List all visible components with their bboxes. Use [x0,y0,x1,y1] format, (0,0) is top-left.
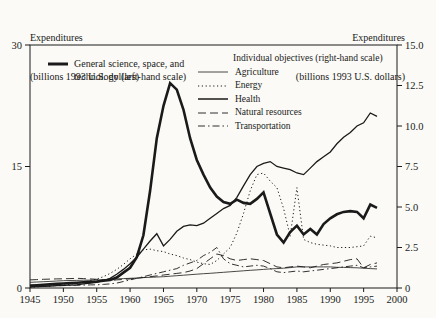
energy-line-sample [198,83,228,89]
legend-general-science: General science, space, and technology (… [48,58,186,83]
right-axis-tick-label: 15.0 [405,40,423,51]
legend-item-natural-resources-label: Natural resources [235,106,302,120]
x-axis-tick-label: 2000 [387,294,408,305]
health-line-sample [198,96,228,102]
x-axis-tick-label: 1975 [220,294,241,305]
legend-item-health: Health [198,93,383,107]
left-axis-tick-label: 15 [12,161,23,172]
right-axis-tick-label: 12.5 [405,80,423,91]
right-axis-tick-label: 5.0 [405,202,418,213]
legend-general-science-line1: General science, space, and [74,58,186,71]
legend-item-energy: Energy [198,79,383,93]
series-energy-line [30,173,377,287]
agriculture-line-sample [198,69,228,75]
x-axis-tick-label: 1950 [53,294,74,305]
legend-individual-objectives: Individual objectives (right-hand scale)… [198,52,383,133]
x-axis-tick-label: 1990 [320,294,341,305]
transportation-line-sample [198,123,228,129]
left-axis-tick-label: 0 [17,283,22,294]
x-axis-tick-label: 1970 [186,294,207,305]
right-axis-tick-label: 0 [405,283,410,294]
x-axis-tick-label: 1960 [120,294,141,305]
legend-item-natural-resources: Natural resources [198,106,383,120]
chart-canvas: 0153002.55.07.510.012.515.01945195019551… [0,0,436,318]
chart-page: Expenditures (billions 1993 U.S. dollars… [0,0,436,318]
legend-general-science-line2: technology (left-hand scale) [74,71,186,84]
legend-header: Individual objectives (right-hand scale) [233,52,383,66]
x-axis-tick-label: 1980 [253,294,274,305]
left-axis-tick-label: 30 [12,40,23,51]
right-axis-tick-label: 2.5 [405,242,418,253]
x-axis-tick-label: 1945 [20,294,41,305]
right-axis-tick-label: 7.5 [405,161,418,172]
x-axis-tick-label: 1985 [286,294,307,305]
x-axis-tick-label: 1955 [86,294,107,305]
legend-item-agriculture-label: Agriculture [235,66,279,80]
natural-resources-line-sample [198,110,228,116]
legend-item-agriculture: Agriculture [198,66,383,80]
series-agriculture-line [30,267,377,282]
series-health-line [30,113,377,287]
legend-item-energy-label: Energy [235,79,262,93]
legend-item-transportation: Transportation [198,120,383,134]
right-axis-tick-label: 10.0 [405,121,423,132]
x-axis-tick-label: 1995 [353,294,374,305]
legend-item-health-label: Health [235,93,260,107]
legend-item-transportation-label: Transportation [235,120,291,134]
general-science-line-sample [48,62,68,66]
x-axis-tick-label: 1965 [153,294,174,305]
